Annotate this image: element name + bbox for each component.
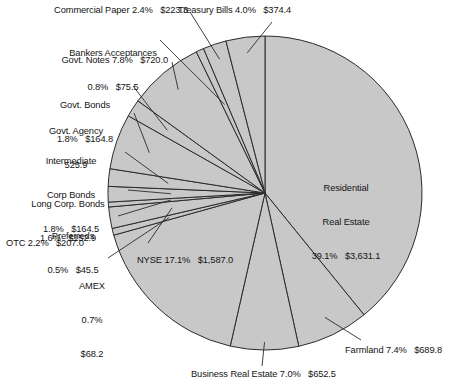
residential-line1: Residential <box>296 183 396 194</box>
intermediate-corp-bonds-line1: Intermediate <box>12 156 130 167</box>
residential-line2: Real Estate <box>296 217 396 228</box>
slice-label-otc: OTC 2.2% $207.0 <box>6 238 156 249</box>
slice-label-amex: AMEX 0.7% $68.2 <box>62 258 122 383</box>
amex-line2: 0.7% <box>62 315 122 326</box>
slice-label-business-real-estate: Business Real Estate 7.0% $652.5 <box>191 369 421 380</box>
slice-label-govt-notes: Govt. Notes 7.8% $720.0 <box>8 55 168 66</box>
slice-label-commercial-paper: Commercial Paper 2.4% $223.3 <box>8 5 188 16</box>
slice-label-treasury-bills: Treasury Bills 4.0% $374.4 <box>178 5 398 16</box>
slice-label-nyse: NYSE 17.1% $1,587.0 <box>137 255 297 266</box>
pie-chart: Commercial Paper 2.4% $223.3 Bankers Acc… <box>0 0 454 383</box>
slice-label-farmland: Farmland 7.4% $689.8 <box>345 345 454 356</box>
amex-line1: AMEX <box>62 281 122 292</box>
residential-line3: 39.1% $3,631.1 <box>296 251 396 262</box>
amex-line3: $68.2 <box>62 349 122 360</box>
slice-label-residential-real-estate: Residential Real Estate 39.1% $3,631.1 <box>296 160 396 285</box>
